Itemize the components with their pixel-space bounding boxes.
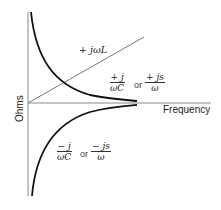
inductive-label: + jωL bbox=[79, 44, 107, 55]
positive-label-b: + js ω bbox=[145, 72, 165, 93]
y-axis-label: Ohms bbox=[14, 95, 25, 122]
negative-or: or bbox=[80, 149, 88, 159]
negative-label-b: − js ω bbox=[91, 141, 111, 162]
positive-or: or bbox=[134, 80, 142, 90]
positive-label-a: + j ωC bbox=[109, 72, 125, 93]
x-axis-label: Frequency bbox=[163, 104, 210, 115]
negative-label-a: − j ωC bbox=[56, 141, 72, 162]
